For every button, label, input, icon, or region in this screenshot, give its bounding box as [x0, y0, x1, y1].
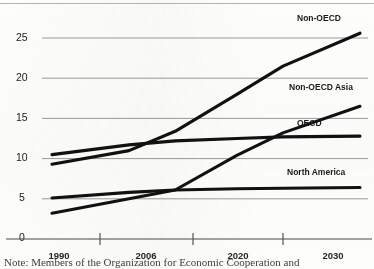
chart-figure: 25 20 15 10 5 0 1990 2006 2020 2030 Non-… — [0, 0, 374, 269]
series-line-north-america — [52, 188, 360, 199]
chart-plot-area — [0, 0, 374, 269]
series-lines — [52, 33, 360, 213]
series-line-non-oecd — [52, 33, 360, 164]
series-line-oecd — [52, 136, 360, 155]
series-line-non-oecd-asia — [52, 106, 360, 213]
chart-footnote: Note: Members of the Organization for Ec… — [4, 256, 370, 269]
x-axis — [6, 233, 372, 245]
